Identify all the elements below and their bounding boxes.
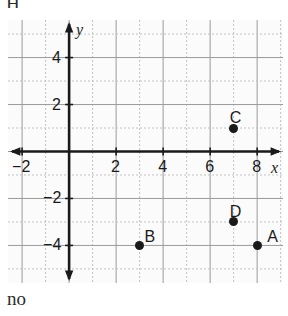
y-axis-arrow-down [65,271,73,281]
y-axis-arrow-up [65,22,73,32]
coordinate-plane: −2246842−2−4xy ABCD [8,20,283,283]
x-axis-arrow-left [10,147,20,155]
axes [8,20,283,283]
x-axis-arrow-right [271,147,281,155]
page-top-text-fragment: H [6,0,20,8]
page-bottom-text: no [7,288,26,310]
